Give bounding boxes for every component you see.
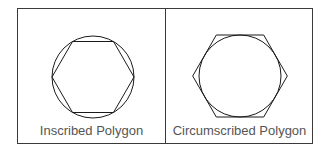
circumscribed-hexagon [193,35,288,117]
circumscribed-figure [193,35,288,117]
inscribed-figure [52,36,134,118]
inscribed-hexagon [52,42,134,113]
inscribed-circle [52,36,134,118]
circumscribed-circle [199,35,281,117]
circumscribed-polygon-label: Circumscribed Polygon [166,123,313,139]
inscribed-polygon-label: Inscribed Polygon [18,123,165,139]
